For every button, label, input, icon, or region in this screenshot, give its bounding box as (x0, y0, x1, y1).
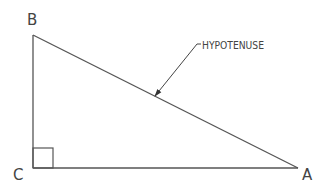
hypotenuse-leader-line (155, 44, 201, 96)
triangle-diagram: B C A HYPOTENUSE (0, 0, 329, 188)
vertex-label-a: A (302, 166, 313, 184)
hypotenuse-ab (33, 35, 298, 168)
right-angle-marker (33, 148, 53, 168)
vertex-label-b: B (27, 11, 37, 29)
vertex-label-c: C (13, 166, 23, 184)
triangle-svg: B C A HYPOTENUSE (0, 0, 329, 188)
hypotenuse-label: HYPOTENUSE (202, 39, 264, 52)
